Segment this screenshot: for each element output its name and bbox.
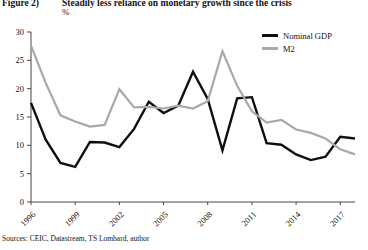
figure-panel: Figure 2) Steadily less reliance on mone… [0, 0, 368, 250]
x-tick-label: 2017 [328, 209, 347, 228]
y-axis: 051015202530 [16, 27, 32, 207]
x-tick-label: 2002 [107, 209, 126, 228]
y-tick-label: 30 [16, 27, 25, 37]
x-tick-label: 2008 [195, 209, 214, 228]
x-tick-label: 1999 [63, 209, 82, 228]
x-tick-label: 2014 [283, 209, 303, 229]
x-tick-label: 2005 [151, 209, 170, 228]
y-tick-label: 10 [16, 140, 25, 150]
x-tick-label: 2011 [239, 209, 258, 228]
source-note: Sources: CEIC, Datastream, TS Lombard, a… [2, 234, 149, 243]
y-tick-label: 0 [20, 197, 24, 207]
series-line-m2 [31, 46, 355, 155]
x-axis: 19961999200220052008201120142017 [18, 202, 355, 228]
y-tick-label: 20 [16, 84, 25, 94]
y-tick-label: 25 [16, 55, 25, 65]
chart-plot-area: 051015202530 199619992002200520082011201… [0, 0, 368, 250]
line-chart-canvas: 051015202530 199619992002200520082011201… [0, 0, 368, 250]
x-tick-label: 1996 [18, 209, 37, 228]
series-layer [31, 46, 355, 167]
y-tick-label: 15 [16, 112, 25, 122]
y-tick-label: 5 [20, 169, 24, 179]
series-line-nominal-gdp [31, 72, 355, 167]
